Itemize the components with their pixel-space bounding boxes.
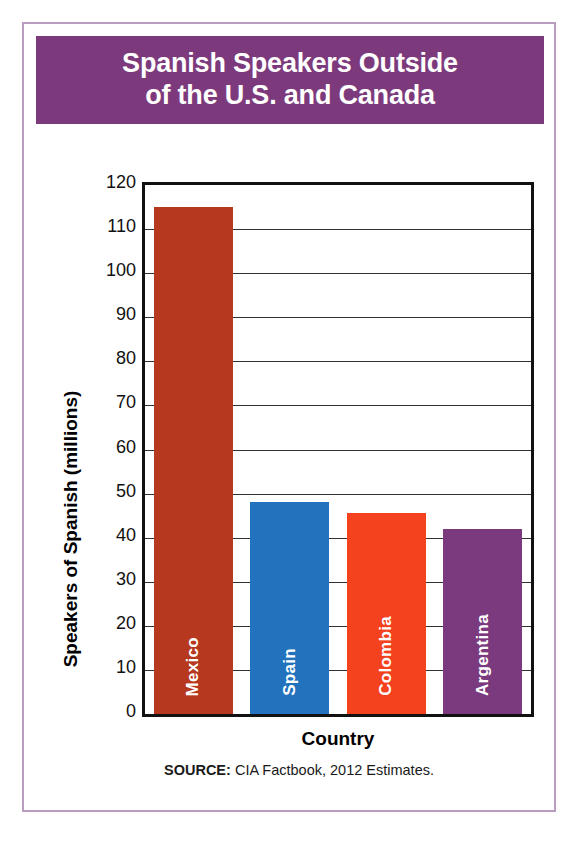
plot-area: MexicoSpainColombiaArgentina bbox=[142, 182, 534, 717]
y-axis-title: Speakers of Spanish (millions) bbox=[60, 364, 82, 694]
y-axis-tick-label: 80 bbox=[92, 348, 136, 369]
bar-mexico: Mexico bbox=[154, 207, 233, 714]
bar-colombia: Colombia bbox=[347, 513, 426, 714]
bar-label: Mexico bbox=[183, 637, 203, 696]
y-axis-tick-labels: 0102030405060708090100110120 bbox=[82, 182, 136, 717]
chart-title-line-1: Spanish Speakers Outside bbox=[122, 48, 458, 80]
figure-frame: Spanish Speakers Outside of the U.S. and… bbox=[22, 22, 556, 812]
bar-label: Colombia bbox=[376, 616, 396, 696]
y-axis-tick-label: 120 bbox=[92, 172, 136, 193]
chart-title-line-2: of the U.S. and Canada bbox=[145, 80, 435, 112]
y-axis-tick-label: 40 bbox=[92, 524, 136, 545]
y-axis-tick-label: 100 bbox=[92, 260, 136, 281]
y-axis-tick-label: 60 bbox=[92, 436, 136, 457]
bar-spain: Spain bbox=[250, 502, 329, 714]
y-axis-tick-label: 20 bbox=[92, 612, 136, 633]
source-text: CIA Factbook, 2012 Estimates. bbox=[231, 762, 434, 778]
bar-label: Spain bbox=[280, 648, 300, 696]
y-axis-tick-label: 0 bbox=[92, 701, 136, 722]
chart-title-banner: Spanish Speakers Outside of the U.S. and… bbox=[36, 36, 544, 124]
bar-argentina: Argentina bbox=[443, 529, 522, 714]
y-axis-tick-label: 90 bbox=[92, 304, 136, 325]
source-label: SOURCE: bbox=[164, 762, 231, 778]
y-axis-tick-label: 30 bbox=[92, 568, 136, 589]
bar-label: Argentina bbox=[473, 614, 493, 696]
y-axis-tick-label: 70 bbox=[92, 392, 136, 413]
y-axis-tick-label: 50 bbox=[92, 480, 136, 501]
y-axis-tick-label: 110 bbox=[92, 216, 136, 237]
y-axis-tick-label: 10 bbox=[92, 656, 136, 677]
chart-body: Speakers of Spanish (millions) 010203040… bbox=[24, 128, 554, 810]
source-note: SOURCE: CIA Factbook, 2012 Estimates. bbox=[64, 762, 534, 778]
x-axis-title: Country bbox=[142, 728, 534, 750]
